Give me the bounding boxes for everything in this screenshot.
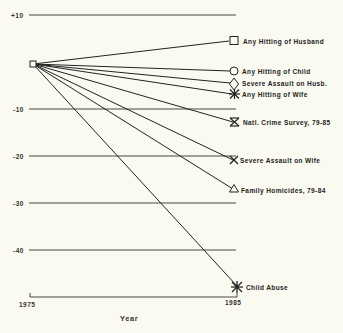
line-homicides [33,64,233,189]
gridlines [29,15,236,250]
y-tick-minus10: -10 [13,106,24,113]
label-ncs: Natl. Crime Survey, 79-85 [243,119,331,127]
line-ncs [33,64,233,122]
diamond-marker-icon [230,78,239,90]
x-axis [30,293,237,297]
x-tick-1985: 1985 [225,299,241,306]
trend-chart: +10 -10 -20 -30 -40 1975 1985 Year [0,0,343,333]
line-child-hitting [33,64,230,71]
triangle-marker-icon [230,185,239,193]
line-child-abuse [33,64,237,286]
label-homicides: Family Homicides, 79-84 [241,187,326,195]
label-severe-wife: Severe Assault on Wife [240,157,320,164]
x-tick-1975: 1975 [19,301,35,308]
x-axis-title: Year [120,314,138,323]
origin-square-icon [30,61,36,67]
square-marker-icon [230,37,238,45]
label-child-abuse: Child Abuse [246,284,288,291]
line-severe-wife [33,64,233,160]
asterisk-marker-icon [229,89,240,99]
label-severe-husband: Severe Assault on Husb. [242,80,327,87]
label-husband-hitting: Any Hitting of Husband [243,38,324,46]
child-abuse-center-dot [236,286,239,289]
y-tick-plus10: +10 [11,12,24,19]
y-tick-minus20: -20 [13,153,24,160]
circle-marker-icon [230,67,238,75]
line-wife-hitting [33,64,232,94]
line-husband-hitting [33,41,229,64]
x-marker-icon [230,156,238,164]
label-child-hitting: Any Hitting of Child [242,68,311,76]
trend-lines [33,41,237,286]
y-tick-minus40: -40 [13,247,24,254]
line-severe-husband [33,64,230,83]
y-tick-minus30: -30 [13,200,24,207]
label-wife-hitting: Any Hitting of Wife [242,91,308,99]
